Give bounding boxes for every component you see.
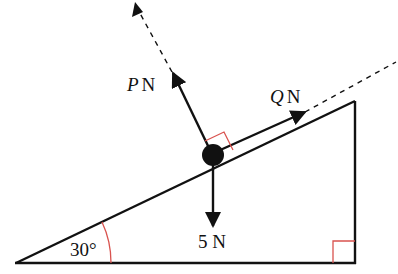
q-force-label: QN — [270, 86, 301, 107]
q-symbol: Q — [270, 86, 284, 107]
p-unit: N — [142, 74, 156, 95]
angle-label: 30° — [70, 239, 97, 260]
incline-triangle — [15, 101, 356, 264]
p-symbol: P — [126, 74, 139, 95]
p-force-arrow — [173, 73, 210, 150]
particle — [202, 144, 224, 166]
q-unit: N — [287, 86, 301, 107]
right-angle-marker-base — [333, 241, 355, 263]
p-force-label: PN — [126, 74, 156, 95]
p-force-dashed-extension — [136, 6, 172, 72]
angle-arc — [102, 222, 111, 263]
q-force-dashed-extension — [305, 62, 396, 112]
inclined-plane-diagram: 30° QN PN 5 N — [0, 0, 398, 274]
weight-label: 5 N — [198, 231, 226, 252]
